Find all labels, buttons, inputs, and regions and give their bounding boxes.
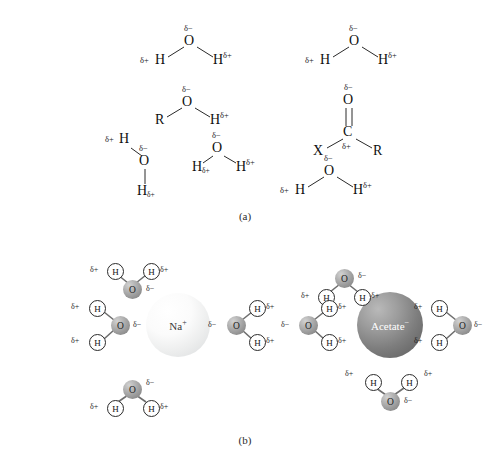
water-oxygen-atom: O xyxy=(227,316,246,335)
water-hydrogen-atom: H xyxy=(431,300,448,317)
oxygen-charge-label: δ− xyxy=(281,320,289,329)
hydrogen-charge-label: δ+ xyxy=(160,265,168,274)
water-hydrogen-atom: H xyxy=(249,334,266,351)
water-hydrogen-atom: H xyxy=(321,334,338,351)
hydrogen-charge-label: δ+ xyxy=(371,291,379,300)
water-hydrogen-atom: H xyxy=(401,374,418,391)
water-hydrogen-atom: H xyxy=(431,334,448,351)
sodium-ion-label: Na+ xyxy=(169,318,186,332)
sodium-ion: Na+ xyxy=(146,293,210,357)
water-hydrogen-atom: H xyxy=(107,263,124,280)
water-hydrogen-atom: H xyxy=(107,400,124,417)
hydrogen-charge-label: δ+ xyxy=(266,302,274,311)
water-hydrogen-atom: H xyxy=(143,400,160,417)
water-oxygen-atom: O xyxy=(111,316,130,335)
hydrogen-charge-label: δ+ xyxy=(160,402,168,411)
oxygen-charge-label: δ− xyxy=(146,378,154,387)
oxygen-charge-label: δ− xyxy=(474,320,482,329)
water-hydrogen-atom: H xyxy=(249,300,266,317)
water-oxygen-atom: O xyxy=(381,392,400,411)
hydrogen-charge-label: δ+ xyxy=(301,291,309,300)
hydrogen-charge-label: δ+ xyxy=(414,302,422,311)
water-oxygen-atom: O xyxy=(299,316,318,335)
oxygen-charge-label: δ− xyxy=(358,271,366,280)
panel-b-bond-lines xyxy=(0,0,490,462)
water-hydrogen-atom: H xyxy=(354,289,371,306)
water-hydrogen-atom: H xyxy=(365,374,382,391)
figure-root: δ− O δ+ H H δ+ δ− O δ+ H H δ+ δ− O R H δ… xyxy=(0,0,490,462)
water-hydrogen-atom: H xyxy=(89,334,106,351)
hydrogen-charge-label: δ+ xyxy=(90,265,98,274)
hydrogen-charge-label: δ+ xyxy=(424,369,432,378)
oxygen-charge-label: δ− xyxy=(133,320,141,329)
oxygen-charge-label: δ− xyxy=(208,320,216,329)
water-oxygen-atom: O xyxy=(335,269,354,288)
hydrogen-charge-label: δ+ xyxy=(414,336,422,345)
hydrogen-charge-label: δ+ xyxy=(338,336,346,345)
acetate-ion-label: Acetate− xyxy=(371,318,409,332)
hydrogen-charge-label: δ+ xyxy=(71,336,79,345)
hydrogen-charge-label: δ+ xyxy=(90,402,98,411)
oxygen-charge-label: δ− xyxy=(146,284,154,293)
water-oxygen-atom: O xyxy=(453,316,472,335)
water-oxygen-atom: O xyxy=(123,380,142,399)
water-hydrogen-atom: H xyxy=(321,300,338,317)
panel-b-caption: (b) xyxy=(225,434,265,446)
water-hydrogen-atom: H xyxy=(143,263,160,280)
hydrogen-charge-label: δ+ xyxy=(338,302,346,311)
water-hydrogen-atom: H xyxy=(89,300,106,317)
water-oxygen-atom: O xyxy=(123,280,142,299)
hydrogen-charge-label: δ+ xyxy=(345,369,353,378)
oxygen-charge-label: δ− xyxy=(404,396,412,405)
hydrogen-charge-label: δ+ xyxy=(71,302,79,311)
hydrogen-charge-label: δ+ xyxy=(266,336,274,345)
